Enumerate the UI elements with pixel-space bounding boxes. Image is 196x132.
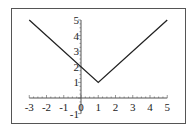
- y-tick-label: 5: [74, 14, 80, 26]
- x-tick-label: 4: [147, 101, 153, 113]
- tick-labels: -3-2-1012345-112345: [25, 14, 171, 120]
- y-tick-label: 4: [74, 30, 80, 42]
- x-tick-label: 5: [165, 101, 171, 113]
- x-tick-label: 2: [113, 101, 119, 113]
- x-tick-label: -3: [25, 101, 35, 113]
- x-tick-label: 3: [130, 101, 136, 113]
- x-tick-label: -2: [42, 101, 51, 113]
- y-tick-label: 3: [74, 45, 80, 57]
- series-line: [29, 20, 167, 82]
- x-tick-label: 1: [96, 101, 102, 113]
- data-series: [29, 20, 167, 82]
- x-tick-label: -1: [59, 101, 68, 113]
- chart-svg: -3-2-1012345-112345: [0, 0, 196, 132]
- y-tick-label: -1: [70, 108, 79, 120]
- axes: [29, 20, 167, 114]
- x-tick-label: 0: [78, 101, 84, 113]
- y-tick-label: 1: [74, 76, 80, 88]
